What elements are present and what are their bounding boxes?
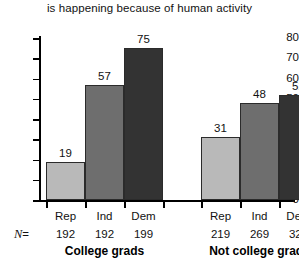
category-label: Ind: [85, 210, 124, 223]
bar: [201, 137, 240, 200]
sample-size-value: 320: [279, 228, 299, 241]
plot-area: 195775314852: [39, 38, 295, 200]
bar-value-label: 52: [279, 80, 299, 92]
bar: [240, 103, 279, 200]
y-tick-mark: [33, 200, 39, 202]
sample-size-value: 219: [201, 228, 240, 241]
x-tick-mark: [201, 201, 203, 208]
sample-size-value: 269: [240, 228, 279, 241]
x-tick-mark: [163, 201, 165, 208]
sample-size-value: 192: [46, 228, 85, 241]
bar-value-label: 48: [240, 88, 279, 100]
group-label: College grads: [34, 244, 175, 258]
bar-value-label: 31: [201, 122, 240, 134]
x-tick-mark: [85, 201, 87, 208]
x-tick-mark: [46, 201, 48, 208]
sample-size-value: 192: [85, 228, 124, 241]
x-tick-mark: [279, 201, 281, 208]
bar-value-label: 75: [124, 33, 163, 45]
n-equals: =: [22, 228, 29, 240]
category-label: Ind: [240, 210, 279, 223]
category-label: Rep: [46, 210, 85, 223]
x-tick-mark: [240, 201, 242, 208]
bar-chart: is happening because of human activity 0…: [0, 0, 299, 259]
bar-value-label: 57: [85, 70, 124, 82]
n-prefix-label: N=: [14, 228, 29, 241]
category-label: Rep: [201, 210, 240, 223]
bar: [279, 95, 299, 200]
bar-value-label: 19: [46, 147, 85, 159]
category-label: Dem: [124, 210, 163, 223]
x-axis-line: [39, 200, 295, 202]
sample-size-value: 199: [124, 228, 163, 241]
bar: [85, 85, 124, 200]
bar: [124, 48, 163, 200]
x-tick-mark: [124, 201, 126, 208]
category-label: Dem: [279, 210, 299, 223]
bar: [46, 162, 85, 200]
group-label: Not college grads: [189, 244, 299, 258]
chart-title: is happening because of human activity: [0, 0, 299, 15]
